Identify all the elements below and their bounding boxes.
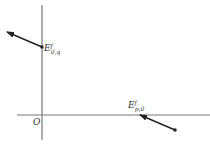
- vector-label-sub: 0,q: [51, 48, 61, 56]
- coordinate-diagram: O Ef0,q Efp,0: [0, 0, 210, 152]
- vector-start-marker: [173, 128, 177, 132]
- vector-e-0-q: Ef0,q: [7, 32, 61, 56]
- vector-label-sub: p,0: [135, 105, 145, 113]
- vector-label: Ef0,q: [43, 42, 61, 56]
- origin-label: O: [33, 117, 41, 127]
- vector-arrow-icon: [7, 32, 42, 47]
- vector-arrow-icon: [140, 115, 175, 130]
- vector-label: Efp,0: [127, 99, 145, 113]
